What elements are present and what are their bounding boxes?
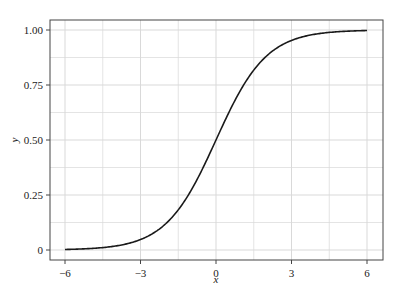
x-axis-label: x bbox=[213, 273, 219, 285]
x-tick-label: −6 bbox=[59, 267, 71, 279]
y-tick-label: 1.00 bbox=[24, 24, 44, 36]
y-tick-label: 0.75 bbox=[24, 79, 44, 91]
y-tick-label: 0 bbox=[38, 244, 44, 256]
y-tick-label: 0.25 bbox=[24, 189, 44, 201]
y-axis-ticks: 00.250.500.751.00 bbox=[24, 24, 50, 256]
x-tick-label: 6 bbox=[364, 267, 370, 279]
x-tick-label: 3 bbox=[289, 267, 295, 279]
y-tick-label: 0.50 bbox=[24, 134, 44, 146]
x-tick-label: −3 bbox=[135, 267, 147, 279]
sigmoid-chart: −6−3036 00.250.500.751.00 x y bbox=[0, 0, 396, 297]
y-axis-label: y bbox=[8, 137, 20, 143]
